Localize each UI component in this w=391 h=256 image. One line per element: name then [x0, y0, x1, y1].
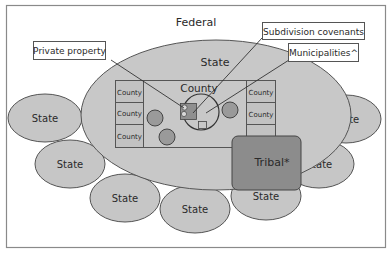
- governance-diagram: Federal State State State State State St…: [0, 0, 391, 256]
- main-state-label: State: [200, 56, 229, 69]
- municipality-circle-3: [222, 102, 238, 118]
- subdivision-covenants-label: Subdivision covenants: [263, 27, 364, 37]
- county-right-label-1: County: [249, 89, 274, 97]
- county-left-label-2: County: [117, 110, 142, 118]
- county-left-label-1: County: [117, 89, 142, 97]
- state-label-5: State: [253, 191, 279, 202]
- county-left-label-3: County: [117, 133, 142, 141]
- private-property-label: Private property: [33, 46, 106, 56]
- state-label-1: State: [32, 113, 58, 124]
- municipality-circle-1: [147, 110, 163, 126]
- property-dot-2: [181, 111, 186, 116]
- municipalities-label: Municipalities^: [289, 48, 358, 58]
- tribal-label: Tribal*: [254, 156, 290, 169]
- state-label-2: State: [57, 159, 83, 170]
- small-parcel-square: [199, 122, 207, 129]
- state-label-3: State: [112, 193, 138, 204]
- municipality-circle-2: [159, 129, 175, 145]
- state-label-4: State: [182, 204, 208, 215]
- federal-label: Federal: [176, 16, 217, 29]
- county-right-label-2: County: [249, 111, 274, 119]
